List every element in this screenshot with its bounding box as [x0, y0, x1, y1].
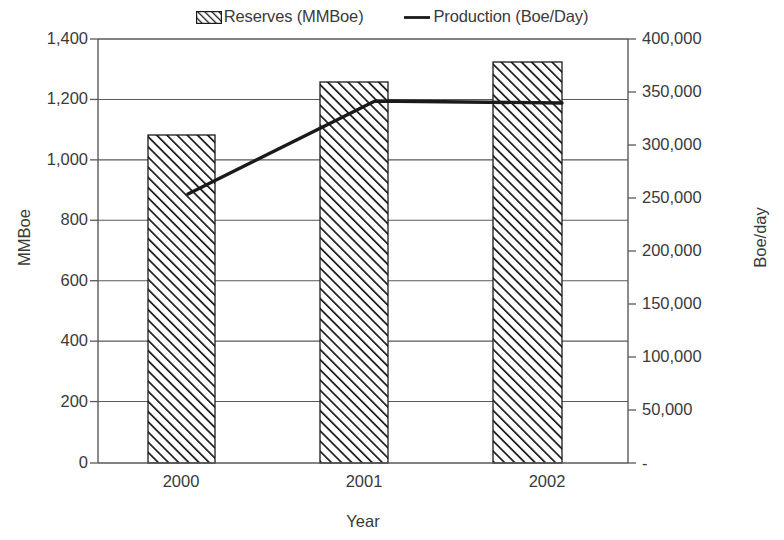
axis-left-labels: 1,400 1,200 1,000 800 600 400 200 0 [0, 0, 88, 540]
y-right-tick-350000: 350,000 [642, 83, 702, 100]
y-right-tick-0: - [642, 455, 648, 472]
y-right-tick-50000: 50,000 [642, 401, 692, 418]
y-right-tick-100000: 100,000 [642, 348, 702, 365]
x-tick-2000: 2000 [163, 472, 200, 491]
bar-2001 [320, 82, 388, 463]
axis-right-tickmarks [628, 39, 636, 463]
y-left-tick-200: 200 [60, 393, 88, 410]
y-left-tick-0: 0 [79, 454, 88, 471]
y-right-tick-250000: 250,000 [642, 189, 702, 206]
y-right-tick-300000: 300,000 [642, 136, 702, 153]
combo-chart: Reserves (MMBoe) Production (Boe/Day) [0, 0, 784, 540]
axis-bottom-labels: 2000 2001 2002 [98, 472, 628, 502]
axis-bottom-title: Year [98, 512, 628, 531]
y-left-tick-1400: 1,400 [47, 30, 88, 47]
axis-left-tickmarks [90, 39, 98, 463]
y-left-tick-1000: 1,000 [47, 151, 88, 168]
axis-right-title: Boe/day [751, 188, 770, 288]
y-left-tick-400: 400 [60, 332, 88, 349]
y-left-tick-1200: 1,200 [47, 90, 88, 107]
y-left-tick-800: 800 [60, 211, 88, 228]
axis-left-title: MMBoe [15, 188, 34, 288]
y-right-tick-200000: 200,000 [642, 242, 702, 259]
y-right-tick-150000: 150,000 [642, 295, 702, 312]
x-tick-2001: 2001 [346, 472, 383, 491]
bar-2002 [493, 62, 562, 463]
y-right-tick-400000: 400,000 [642, 30, 702, 47]
y-left-tick-600: 600 [60, 272, 88, 289]
x-tick-2002: 2002 [529, 472, 566, 491]
